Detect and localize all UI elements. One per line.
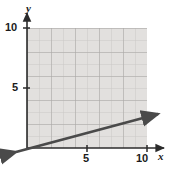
graph-figure: 10 5 5 10 y x <box>0 0 169 184</box>
y-axis-label: y <box>26 2 31 14</box>
x-tick-label-10: 10 <box>136 152 148 164</box>
x-axis-label: x <box>158 150 164 162</box>
caption-fragment <box>0 176 169 184</box>
y-tick-label-5: 5 <box>12 81 18 93</box>
y-tick-label-10: 10 <box>5 21 17 33</box>
x-tick-label-5: 5 <box>83 152 89 164</box>
plot-area <box>27 28 147 148</box>
major-gridlines <box>27 28 147 148</box>
